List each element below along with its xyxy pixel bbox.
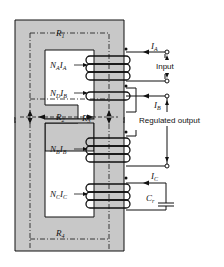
input-terminal-top <box>165 50 169 54</box>
winding-a-label: NAIA <box>49 60 67 71</box>
current-ia-label: IA <box>150 41 158 52</box>
ferroresonant-circuit-diagram: R1 R2 R3 R4 NAIA NDIB NBIB N <box>0 0 224 267</box>
output-terminal-top <box>165 94 169 98</box>
output-wiring <box>126 88 167 166</box>
current-ic-label: IC <box>150 171 159 182</box>
winding-c-label: NCIC <box>49 189 68 200</box>
regulated-output-label: Regulated output <box>139 116 201 125</box>
winding-d-label: NDIB <box>49 88 67 99</box>
polarity-dots <box>125 48 128 180</box>
input-terminal-bottom <box>165 79 169 83</box>
input-label: Input <box>156 62 175 71</box>
current-ib-label: IB <box>153 100 161 111</box>
output-terminal-bottom <box>165 164 169 168</box>
capacitor-label: Cr <box>146 193 155 204</box>
